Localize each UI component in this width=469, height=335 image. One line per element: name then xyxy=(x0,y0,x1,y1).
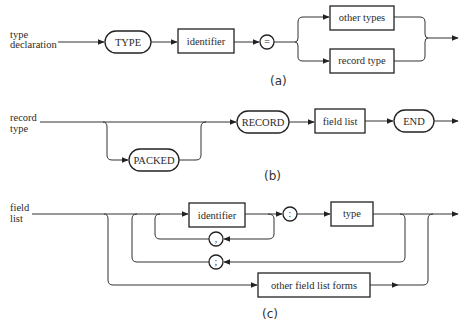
keyword-packed: PACKED xyxy=(133,155,174,166)
type-text: type xyxy=(343,208,361,219)
equals-symbol: = xyxy=(264,36,270,47)
label-record: record xyxy=(10,112,38,123)
syntax-diagrams: type declaration TYPE identifier = other… xyxy=(0,0,469,335)
caption-c: (c) xyxy=(262,307,278,321)
comma-symbol: , xyxy=(215,233,218,244)
label-field: field xyxy=(10,202,30,213)
field-list-text: field list xyxy=(323,116,358,127)
label-declaration: declaration xyxy=(10,39,57,50)
diagram-b-record-type: record type PACKED RECORD field list END… xyxy=(10,109,458,183)
keyword-type: TYPE xyxy=(115,37,141,48)
colon-symbol: : xyxy=(289,208,292,219)
other-types-text: other types xyxy=(339,12,385,23)
label-type: type xyxy=(10,123,28,134)
caption-a: (a) xyxy=(270,74,287,88)
record-type-text: record type xyxy=(338,55,386,66)
semicolon-symbol: ; xyxy=(215,256,218,267)
other-field-list-forms-text: other field list forms xyxy=(271,280,357,291)
label-list: list xyxy=(10,213,23,224)
keyword-end: END xyxy=(403,116,425,127)
diagram-c-field-list: field list identifier : type , ; other f… xyxy=(10,202,458,321)
identifier-text: identifier xyxy=(198,210,237,221)
identifier-text: identifier xyxy=(187,36,226,47)
diagram-a-type-declaration: type declaration TYPE identifier = other… xyxy=(10,6,458,88)
keyword-record: RECORD xyxy=(242,117,285,128)
caption-b: (b) xyxy=(264,169,281,183)
